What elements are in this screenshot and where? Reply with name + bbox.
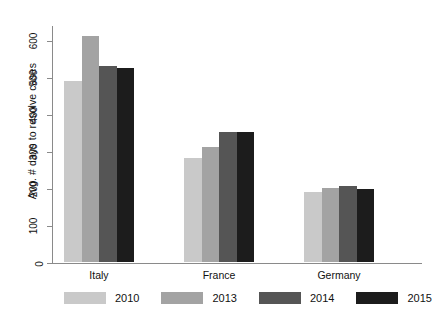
bar-chart: Avg. # days to resolve cases 01002003004… <box>0 0 437 321</box>
y-axis-line <box>52 26 53 264</box>
y-axis-tick-label: 300 <box>30 144 40 161</box>
chart-legend: 2010201320142015 <box>64 292 424 304</box>
legend-item-2014: 2014 <box>259 292 334 304</box>
y-axis-title: Avg. # days to resolve cases <box>26 21 38 241</box>
legend-item-2010: 2010 <box>64 292 139 304</box>
bar-germany-2014 <box>339 186 357 262</box>
bar-france-2013 <box>202 147 220 262</box>
bar-group: France <box>184 20 254 263</box>
bar-italy-2014 <box>99 66 117 262</box>
y-axis-tick-label: 200 <box>30 181 40 198</box>
legend-label-2013: 2013 <box>212 293 236 304</box>
y-axis-tick-label: 100 <box>30 218 40 235</box>
bar-germany-2015 <box>357 189 375 262</box>
y-axis-tick-label: 500 <box>30 70 40 87</box>
bar-italy-2013 <box>82 36 100 262</box>
legend-swatch-2010 <box>64 292 106 304</box>
y-axis-tick: 500 <box>47 78 52 79</box>
bar-italy-2015 <box>117 68 135 262</box>
y-axis-tick: 100 <box>47 226 52 227</box>
legend-label-2015: 2015 <box>407 293 431 304</box>
bar-group: Germany <box>304 20 374 263</box>
bar-set <box>64 20 134 262</box>
y-axis-tick: 0 <box>47 263 52 264</box>
x-axis-category-label: Italy <box>64 269 134 281</box>
bar-germany-2013 <box>322 188 340 262</box>
x-axis-category-label: France <box>184 269 254 281</box>
plot-area: 0100200300400500600 ItalyFranceGermany <box>52 20 422 263</box>
legend-swatch-2014 <box>259 292 301 304</box>
x-axis-line <box>52 263 422 264</box>
bar-set <box>304 20 374 262</box>
y-axis-tick: 200 <box>47 189 52 190</box>
y-axis-tick-label: 0 <box>35 261 45 267</box>
y-axis-tick: 400 <box>47 115 52 116</box>
legend-label-2014: 2014 <box>310 293 334 304</box>
legend-item-2015: 2015 <box>356 292 431 304</box>
bar-france-2014 <box>219 132 237 262</box>
y-axis-tick-label: 400 <box>30 107 40 124</box>
legend-swatch-2015 <box>356 292 398 304</box>
x-axis-category-label: Germany <box>304 269 374 281</box>
legend-item-2013: 2013 <box>161 292 236 304</box>
bar-group: Italy <box>64 20 134 263</box>
bar-italy-2010 <box>64 81 82 262</box>
bar-france-2015 <box>237 132 255 262</box>
bar-germany-2010 <box>304 192 322 262</box>
bar-set <box>184 20 254 262</box>
bar-france-2010 <box>184 158 202 262</box>
legend-label-2010: 2010 <box>115 293 139 304</box>
y-axis-tick: 600 <box>47 41 52 42</box>
y-axis-tick-label: 600 <box>30 33 40 50</box>
y-axis-tick: 300 <box>47 152 52 153</box>
legend-swatch-2013 <box>161 292 203 304</box>
